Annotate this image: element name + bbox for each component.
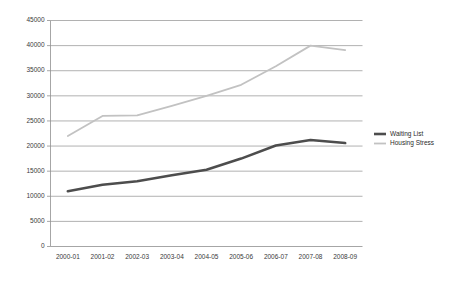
y-tick-label: 15000: [26, 167, 44, 174]
y-tick-label: 45000: [26, 16, 44, 23]
y-tick-label: 5000: [30, 217, 45, 224]
line-chart: 0500010000150002000025000300003500040000…: [0, 0, 450, 281]
legend: Waiting ListHousing Stress: [374, 130, 435, 148]
x-tick-label: 2004-05: [195, 253, 219, 260]
series-line-housing-stress: [68, 46, 345, 136]
y-tick-label: 30000: [26, 92, 44, 99]
x-tick-label: 2002-03: [125, 253, 149, 260]
x-tick-label: 2007-08: [299, 253, 323, 260]
y-tick-label: 0: [41, 242, 45, 249]
legend-label-waiting-list: Waiting List: [390, 130, 424, 138]
series-line-waiting-list: [68, 140, 345, 191]
x-tick-labels: 2000-012001-022002-032003-042004-052005-…: [56, 253, 358, 260]
x-tick-label: 2008-09: [333, 253, 357, 260]
x-tick-label: 2006-07: [264, 253, 288, 260]
y-gridlines: 0500010000150002000025000300003500040000…: [26, 16, 362, 249]
x-tick-label: 2005-06: [229, 253, 253, 260]
y-tick-label: 35000: [26, 66, 44, 73]
x-tick-label: 2001-02: [91, 253, 115, 260]
x-tick-label: 2000-01: [56, 253, 80, 260]
x-tick-label: 2003-04: [160, 253, 184, 260]
legend-label-housing-stress: Housing Stress: [390, 139, 435, 147]
y-tick-label: 25000: [26, 117, 44, 124]
y-tick-label: 40000: [26, 41, 44, 48]
y-tick-label: 10000: [26, 192, 44, 199]
y-tick-label: 20000: [26, 142, 44, 149]
chart-canvas: 0500010000150002000025000300003500040000…: [0, 0, 450, 281]
